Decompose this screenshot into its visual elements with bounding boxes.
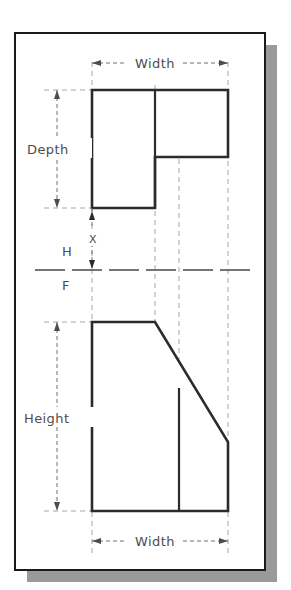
technical-drawing-figure: H F Width Depth X [0, 0, 291, 590]
dimension-label-height: Height [24, 411, 69, 426]
dimension-label-x: X [89, 233, 97, 246]
fold-label-f: F [62, 278, 70, 293]
dimension-label-depth: Depth [27, 142, 69, 157]
dimension-label-width-bottom: Width [135, 534, 175, 549]
orthographic-projection-drawing: H F Width Depth X [0, 0, 291, 590]
dimension-label-width-top: Width [135, 56, 175, 71]
fold-label-h: H [62, 244, 72, 259]
